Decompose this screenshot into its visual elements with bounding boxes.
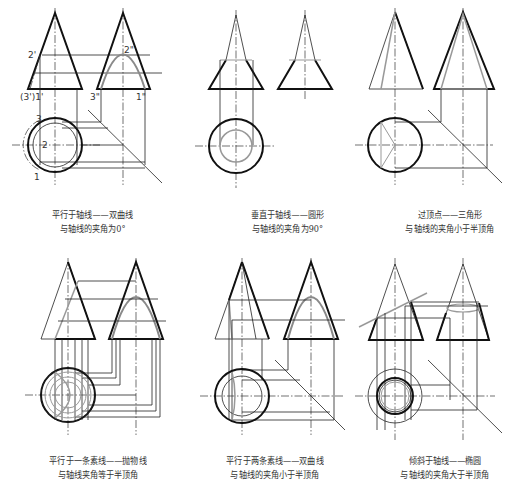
label-3: 3 — [36, 114, 42, 124]
caption-line-2: 与轴线的夹角为90° — [231, 222, 344, 236]
caption-line-2: 与轴线夹角等于半顶角 — [40, 468, 157, 482]
label-2dbl: 2" — [124, 45, 134, 55]
caption-line-1: 倾斜于轴线——椭圆 — [387, 454, 504, 468]
caption-perpendicular-axis: 垂直于轴线——圆形 与轴线的夹角为90° — [225, 208, 350, 236]
caption-line-1: 垂直于轴线——圆形 — [231, 208, 344, 222]
label-2: 2 — [42, 140, 48, 150]
cone-sections-drawing: 2' (3')1' 2" 3" 1" 3 2 1 — [0, 0, 517, 502]
panel-parallel-one-element — [25, 258, 166, 435]
panel-through-apex — [355, 8, 502, 185]
caption-parallel-axis: 平行于轴线——双曲线 与轴线的夹角为0° — [30, 208, 155, 236]
caption-line-1: 过顶点——三角形 — [387, 208, 513, 222]
label-1: 1 — [34, 172, 40, 182]
panel-parallel-axis: 2' (3')1' 2" 3" 1" 3 2 1 — [12, 8, 162, 185]
caption-line-2: 与轴线的夹角为0° — [36, 222, 149, 236]
caption-line-2: 与轴线的夹角小于半顶角 — [217, 468, 334, 482]
label-3prime-1prime: (3')1' — [20, 92, 43, 102]
label-3dbl: 3" — [90, 92, 100, 102]
caption-line-1: 平行于轴线——双曲线 — [36, 208, 149, 222]
caption-line-1: 平行于两条素线——双曲线 — [217, 454, 334, 468]
caption-parallel-two-elements: 平行于两条素线——双曲线 与轴线的夹角小于半顶角 — [210, 454, 340, 482]
panel-parallel-two-elements — [200, 258, 345, 435]
label-2prime: 2' — [28, 50, 36, 60]
caption-oblique-axis: 倾斜于轴线——椭圆 与轴线的夹角大于半顶角 — [380, 454, 510, 482]
panel-perpendicular-axis — [195, 10, 332, 188]
caption-parallel-one-element: 平行于一条素线——抛物线 与轴线夹角等于半顶角 — [33, 454, 163, 482]
caption-line-2: 与轴线的夹角大于半顶角 — [387, 468, 504, 482]
panel-oblique-axis — [355, 258, 502, 440]
caption-line-1: 平行于一条素线——抛物线 — [40, 454, 157, 468]
caption-line-2: 与轴线的夹角小于半顶角 — [387, 222, 513, 236]
caption-through-apex: 过顶点——三角形 与轴线的夹角小于半顶角 — [380, 208, 517, 236]
label-1dbl: 1" — [136, 92, 146, 102]
